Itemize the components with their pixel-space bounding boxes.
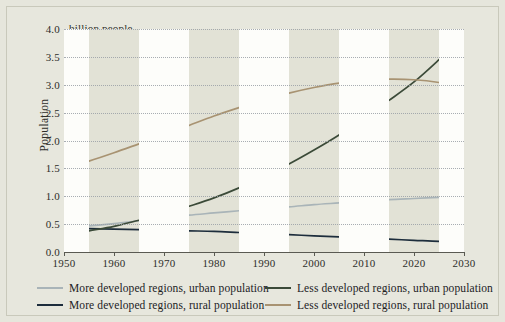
- legend: More developed regions, urban population…: [37, 279, 487, 313]
- x-tick-label: 1950: [37, 257, 91, 269]
- x-tick-label: 2020: [387, 257, 441, 269]
- legend-swatch-icon: [265, 287, 291, 289]
- gridline: [64, 85, 464, 86]
- legend-label: Less developed regions, rural population: [297, 299, 488, 311]
- legend-item[interactable]: Less developed regions, urban population: [265, 282, 487, 294]
- legend-label: More developed regions, urban population: [69, 282, 269, 294]
- gridline: [64, 29, 464, 30]
- x-tick-label: 1980: [187, 257, 241, 269]
- legend-item[interactable]: Less developed regions, rural population: [265, 299, 487, 311]
- x-tick: [464, 252, 465, 256]
- x-tick: [114, 252, 115, 256]
- x-tick: [64, 252, 65, 256]
- gridline: [64, 168, 464, 169]
- y-tick-label: 2.5: [16, 107, 60, 119]
- legend-label: Less developed regions, urban population: [297, 282, 493, 294]
- y-tick-label: 2.0: [16, 135, 60, 147]
- legend-item[interactable]: More developed regions, urban population: [37, 282, 265, 294]
- chart-frame: billion people Population 0.00.51.01.52.…: [6, 6, 499, 316]
- y-tick-label: 4.0: [16, 23, 60, 35]
- x-tick-label: 1960: [87, 257, 141, 269]
- x-tick: [364, 252, 365, 256]
- chart-figure: billion people Population 0.00.51.01.52.…: [0, 0, 505, 322]
- x-tick-label: 2010: [337, 257, 391, 269]
- y-tick-label: 1.5: [16, 162, 60, 174]
- x-tick-label: 2030: [437, 257, 491, 269]
- x-tick: [414, 252, 415, 256]
- y-tick-label: 3.5: [16, 51, 60, 63]
- legend-swatch-icon: [265, 304, 291, 306]
- x-tick: [164, 252, 165, 256]
- legend-label: More developed regions, rural population: [69, 299, 264, 311]
- x-tick-label: 1970: [137, 257, 191, 269]
- gridline: [64, 113, 464, 114]
- legend-swatch-icon: [37, 304, 63, 306]
- x-tick: [264, 252, 265, 256]
- y-tick-label: 1.0: [16, 190, 60, 202]
- gridline: [64, 57, 464, 58]
- x-tick: [214, 252, 215, 256]
- plot-area: [64, 29, 464, 252]
- legend-item[interactable]: More developed regions, rural population: [37, 299, 265, 311]
- x-tick-label: 2000: [287, 257, 341, 269]
- gridline: [64, 196, 464, 197]
- y-tick-label: 0.5: [16, 218, 60, 230]
- y-axis-tick-labels: 0.00.51.01.52.02.53.03.54.0: [14, 29, 60, 252]
- legend-swatch-icon: [37, 287, 63, 289]
- y-tick-label: 3.0: [16, 79, 60, 91]
- x-tick-label: 1990: [237, 257, 291, 269]
- x-tick: [314, 252, 315, 256]
- gridline: [64, 224, 464, 225]
- gridline: [64, 141, 464, 142]
